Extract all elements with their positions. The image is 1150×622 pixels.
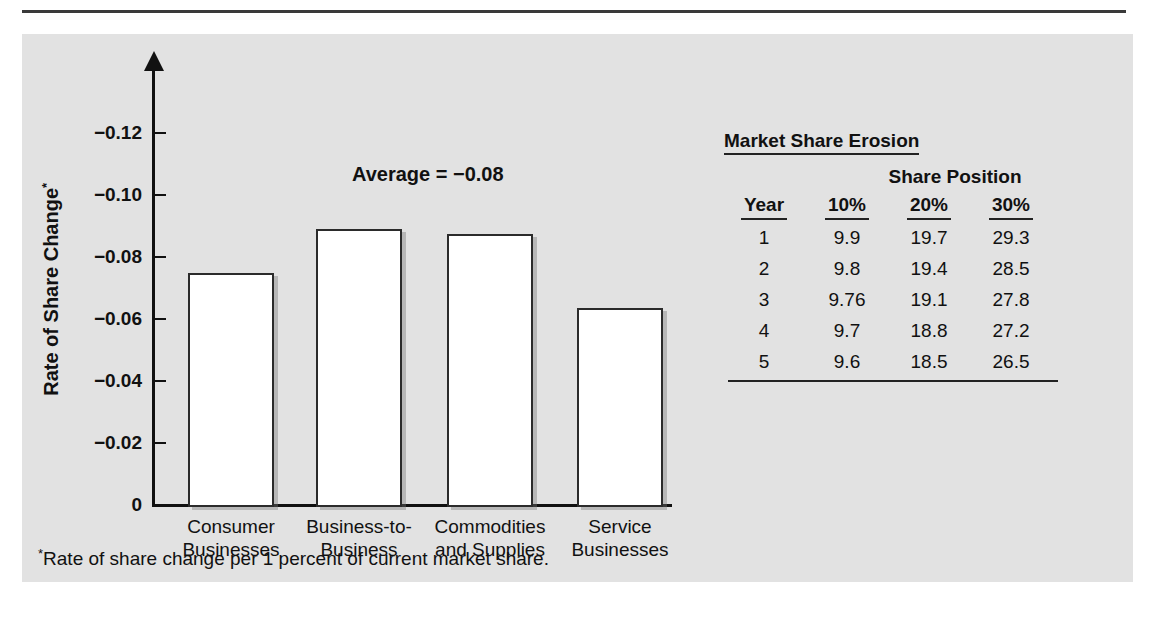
y-axis-tick-label: 0 <box>50 494 142 516</box>
table-cell-p10: 9.7 <box>806 315 888 346</box>
y-axis-tick <box>155 442 166 444</box>
category-label-line2: Businesses <box>545 538 695 561</box>
erosion-data-table: Year 10% 20% 30% 19.919.729.329.819.428.… <box>722 194 1052 377</box>
erosion-table-body: 19.919.729.329.819.428.539.7619.127.849.… <box>722 222 1052 377</box>
table-row: 39.7619.127.8 <box>722 284 1052 315</box>
table-cell-year: 2 <box>722 253 806 284</box>
market-share-erosion-table: Market Share Erosion Share Position Year… <box>722 130 1122 382</box>
y-axis-tick-label: −0.06 <box>50 308 142 330</box>
chart-footnote: *Rate of share change per 1 percent of c… <box>38 546 549 570</box>
table-cell-p10: 9.76 <box>806 284 888 315</box>
table-cell-p30: 26.5 <box>970 346 1052 377</box>
table-cell-p20: 18.8 <box>888 315 970 346</box>
table-cell-p10: 9.6 <box>806 346 888 377</box>
bar-chart: Rate of Share Change* −0.12−0.10−0.08−0.… <box>22 34 722 582</box>
table-header-year: Year <box>722 194 806 222</box>
y-axis-tick <box>155 504 166 506</box>
table-header-10pct: 10% <box>806 194 888 222</box>
table-cell-p20: 19.1 <box>888 284 970 315</box>
category-label-line1: Service <box>545 515 695 538</box>
table-bottom-rule <box>728 380 1058 382</box>
y-axis-title-text: Rate of Share Change <box>40 188 62 396</box>
bar <box>316 229 402 507</box>
y-axis-tick-label: −0.04 <box>50 370 142 392</box>
table-cell-year: 3 <box>722 284 806 315</box>
y-axis-tick-label: −0.08 <box>50 246 142 268</box>
table-row: 29.819.428.5 <box>722 253 1052 284</box>
y-axis-tick-label: −0.12 <box>50 122 142 144</box>
heading-rule <box>22 10 1126 13</box>
x-axis-category-label: ServiceBusinesses <box>545 515 695 561</box>
footnote-text: Rate of share change per 1 percent of cu… <box>43 548 549 569</box>
y-axis-tick-label: −0.02 <box>50 432 142 454</box>
table-cell-p20: 19.4 <box>888 253 970 284</box>
bar <box>577 308 663 507</box>
category-label-line1: Business-to- <box>284 515 434 538</box>
table-cell-p30: 27.2 <box>970 315 1052 346</box>
y-axis-tick <box>155 318 166 320</box>
average-annotation: Average = −0.08 <box>352 163 504 186</box>
table-subtitle: Share Position <box>722 166 1122 188</box>
table-cell-year: 4 <box>722 315 806 346</box>
table-cell-p20: 18.5 <box>888 346 970 377</box>
y-axis-tick <box>155 132 166 134</box>
table-row: 59.618.526.5 <box>722 346 1052 377</box>
table-cell-p10: 9.8 <box>806 253 888 284</box>
table-cell-p30: 27.8 <box>970 284 1052 315</box>
table-header-row: Year 10% 20% 30% <box>722 194 1052 222</box>
y-axis-tick <box>155 380 166 382</box>
y-axis-tick <box>155 256 166 258</box>
table-title: Market Share Erosion <box>724 130 919 155</box>
y-axis-tick-label: −0.10 <box>50 184 142 206</box>
bar <box>447 234 533 507</box>
table-row: 49.718.827.2 <box>722 315 1052 346</box>
table-header-30pct: 30% <box>970 194 1052 222</box>
y-axis-tick <box>155 194 166 196</box>
table-cell-p30: 29.3 <box>970 222 1052 253</box>
table-header-20pct: 20% <box>888 194 970 222</box>
table-cell-p20: 19.7 <box>888 222 970 253</box>
bar <box>188 273 274 508</box>
table-row: 19.919.729.3 <box>722 222 1052 253</box>
figure-panel: Rate of Share Change* −0.12−0.10−0.08−0.… <box>22 34 1133 582</box>
category-label-line1: Commodities <box>415 515 565 538</box>
table-cell-year: 1 <box>722 222 806 253</box>
table-cell-year: 5 <box>722 346 806 377</box>
table-cell-p10: 9.9 <box>806 222 888 253</box>
table-cell-p30: 28.5 <box>970 253 1052 284</box>
